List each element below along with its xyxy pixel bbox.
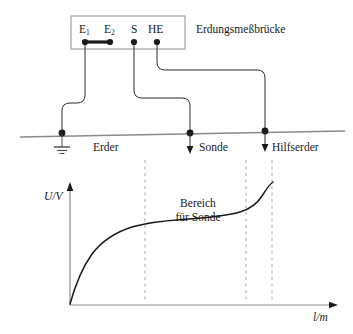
terminal-dot-he[interactable] (154, 39, 160, 45)
earth-resistance-measurement-diagram: E1 E2 S HE Erdungsmeßbrücke Erder Sonde … (0, 0, 353, 334)
terminal-dot-s[interactable] (131, 39, 137, 45)
soil-surface-line (20, 131, 345, 137)
probe-range-annotation: Bereich für Sonde (161, 196, 235, 225)
diagram-canvas (0, 0, 353, 334)
wire-s-to-sonde (134, 45, 190, 133)
terminal-label-e2: E2 (104, 23, 115, 35)
terminal-label-s: S (131, 23, 137, 35)
chart-x-axis-arrow (329, 302, 338, 309)
probe-range-annotation-line-1: Bereich (161, 196, 235, 210)
probe-arrow-hilfserder (262, 144, 269, 152)
chart-x-axis-label: l/m (313, 311, 328, 323)
chart-y-axis-label: U/V (44, 190, 63, 202)
probe-range-annotation-line-2: für Sonde (161, 210, 235, 224)
wire-he-to-hilfserder (157, 45, 265, 133)
instrument-name-label: Erdungsmeßbrücke (196, 23, 285, 35)
chart-y-axis-arrow (67, 182, 74, 191)
terminal-label-he: HE (148, 23, 163, 35)
terminal-label-e1: E1 (79, 23, 90, 35)
node-label-sonde: Sonde (199, 141, 228, 153)
wire-e-to-erder (62, 45, 85, 133)
node-label-erder: Erder (93, 141, 119, 153)
probe-arrow-sonde (187, 146, 194, 154)
node-label-hilfserder: Hilfserder (272, 141, 319, 153)
